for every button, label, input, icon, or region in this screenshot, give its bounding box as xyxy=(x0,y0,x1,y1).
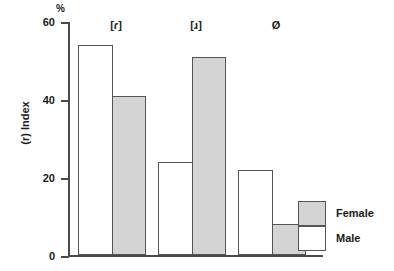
plot-area: [ɾ] [ɹ] Ø xyxy=(70,22,323,255)
bar-female-1 xyxy=(112,96,146,255)
legend-entry-female: Female xyxy=(298,201,374,226)
bar-male-1 xyxy=(78,45,113,255)
bar-male-3 xyxy=(238,170,273,255)
legend-swatch-female xyxy=(298,201,326,226)
y-axis-title: (r) Index xyxy=(19,68,31,178)
x-axis-baseline xyxy=(68,255,323,257)
category-label-1: [ɾ] xyxy=(78,20,154,31)
y-tick-mark xyxy=(61,100,69,102)
legend-entry-male: Male xyxy=(298,226,374,251)
y-tick-label: 40 xyxy=(25,95,55,106)
category-label-3: Ø xyxy=(238,20,314,31)
y-tick-mark xyxy=(61,22,69,24)
category-label-2: [ɹ] xyxy=(158,20,234,31)
bar-chart: % (r) Index 60 40 20 0 [ɾ] [ɹ] Ø xyxy=(0,0,394,271)
bar-male-2 xyxy=(158,162,193,255)
legend-label-female: Female xyxy=(336,208,374,219)
y-tick-label: 20 xyxy=(25,173,55,184)
y-tick-mark xyxy=(61,178,69,180)
legend-label-male: Male xyxy=(336,233,360,244)
y-tick-label: 60 xyxy=(25,17,55,28)
legend: Female Male xyxy=(298,201,374,251)
y-tick-mark xyxy=(61,256,69,258)
bar-female-2 xyxy=(192,57,226,255)
y-axis-unit-label: % xyxy=(56,4,65,14)
legend-swatch-male xyxy=(298,226,326,251)
y-tick-label: 0 xyxy=(25,251,55,262)
